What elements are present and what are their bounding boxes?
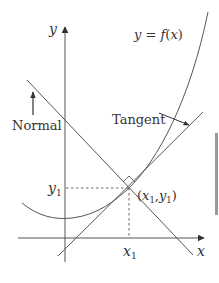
x1-tick-label: x1	[123, 243, 137, 261]
tangent-line	[58, 112, 203, 256]
normal-line	[27, 80, 193, 255]
tangent-label: Tangent	[112, 112, 166, 127]
curve-label: y = f(x)	[133, 27, 183, 42]
tangent-normal-diagram: y x y = f(x) Tangent Normal y1 x1 (x1,y1…	[0, 0, 219, 283]
y1-tick-label: y1	[47, 180, 62, 198]
point-label: (x1,y1)	[137, 188, 177, 205]
x-axis-label: x	[197, 243, 205, 259]
y-axis-label: y	[48, 21, 58, 37]
normal-label: Normal	[12, 118, 62, 133]
page-edge-bar	[215, 133, 218, 215]
